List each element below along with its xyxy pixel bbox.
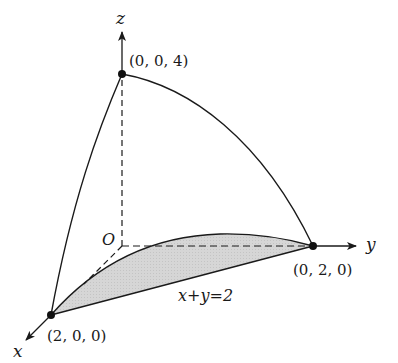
point-0-2-0 [309, 242, 317, 250]
z-axis-label: z [115, 8, 126, 28]
point-label-0-2-0: (0, 2, 0) [293, 261, 352, 279]
point-label-2-0-0: (2, 0, 0) [47, 327, 106, 345]
point-label-0-0-4: (0, 0, 4) [129, 52, 188, 70]
curve-yz-trace [122, 74, 313, 246]
boundary-equation-label: x+y=2 [178, 286, 233, 305]
point-0-0-4 [118, 70, 126, 78]
x-axis-label: x [13, 341, 23, 361]
diagram-3d-region: z y x O (0, 0, 4) (0, 2, 0) (2, 0, 0) x+… [0, 0, 398, 363]
y-axis-label: y [365, 234, 376, 254]
origin-label: O [102, 230, 115, 249]
point-2-0-0 [47, 311, 55, 319]
